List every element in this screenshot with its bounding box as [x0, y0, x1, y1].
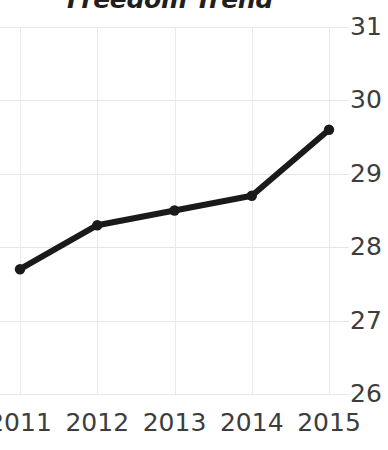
- x-axis-tick-label: 2014: [212, 410, 292, 435]
- gridline-vertical: [252, 27, 253, 394]
- gridline-vertical: [175, 27, 176, 394]
- line-chart: Freedom Trend 313029282726 2011201220132…: [0, 0, 388, 450]
- gridline-vertical: [20, 27, 21, 394]
- chart-title: Freedom Trend: [0, 0, 340, 13]
- y-axis-tick-label: 29: [350, 161, 386, 186]
- plot-area: [20, 27, 329, 394]
- x-axis-tick-label: 2011: [0, 410, 60, 435]
- y-axis-tick-label: 31: [350, 14, 386, 39]
- gridline-vertical: [329, 27, 330, 394]
- x-axis-tick-label: 2013: [135, 410, 215, 435]
- y-axis-tick-label: 27: [350, 308, 386, 333]
- gridline-vertical: [97, 27, 98, 394]
- y-axis-tick-label: 28: [350, 234, 386, 259]
- y-axis-tick-label: 26: [350, 381, 386, 406]
- x-axis-tick-label: 2012: [57, 410, 137, 435]
- y-axis-tick-label: 30: [350, 87, 386, 112]
- x-axis-tick-label: 2015: [289, 410, 369, 435]
- gridline-horizontal: [0, 394, 349, 395]
